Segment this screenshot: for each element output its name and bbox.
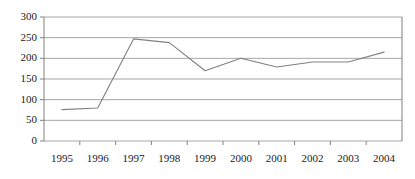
x-axis-tick-label: 2001	[257, 153, 297, 164]
line-chart: 050100150200250300 199519961997199819992…	[0, 0, 415, 179]
x-axis-tick-label: 1999	[185, 153, 225, 164]
y-axis-tick-label: 250	[21, 32, 38, 43]
x-axis-tick-label: 1995	[42, 153, 82, 164]
gridlines	[44, 17, 402, 141]
y-axis-tick-label: 150	[21, 73, 38, 84]
x-axis-tick-label: 1996	[78, 153, 118, 164]
y-axis-ticks	[40, 17, 44, 141]
y-axis-tick-label: 200	[21, 52, 38, 63]
x-axis-tick-label: 1998	[149, 153, 189, 164]
x-axis-ticks	[80, 141, 366, 145]
x-axis-tick-label: 1997	[114, 153, 154, 164]
x-axis-tick-label: 2000	[221, 153, 261, 164]
x-axis-tick-label: 2004	[364, 153, 404, 164]
y-axis-tick-label: 300	[21, 11, 38, 22]
y-axis-tick-label: 100	[21, 94, 38, 105]
x-axis-tick-label: 2003	[328, 153, 368, 164]
data-series-line	[62, 39, 384, 110]
y-axis-tick-label: 50	[26, 114, 37, 125]
x-axis-tick-label: 2002	[293, 153, 333, 164]
y-axis-tick-label: 0	[32, 135, 38, 146]
